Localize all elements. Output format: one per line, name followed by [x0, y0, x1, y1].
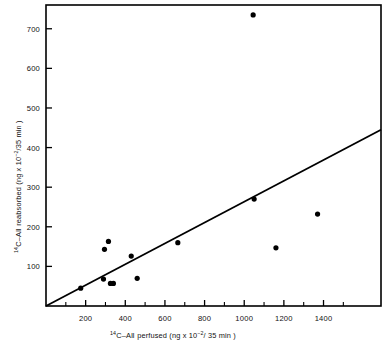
- scatter-plot-figure: [0, 0, 389, 349]
- x-tick-label-400: 400: [119, 314, 132, 323]
- x-tick-label-800: 800: [198, 314, 211, 323]
- data-point: [106, 239, 111, 244]
- regression-line: [46, 130, 381, 306]
- y-tick-label-700: 700: [16, 24, 40, 33]
- y-tick-label-400: 400: [16, 143, 40, 152]
- data-point: [315, 212, 320, 217]
- data-points: [78, 12, 320, 290]
- data-point: [101, 276, 106, 281]
- data-point: [273, 245, 278, 250]
- data-point: [102, 247, 107, 252]
- y-tick-label-500: 500: [16, 103, 40, 112]
- data-point: [251, 12, 256, 17]
- x-axis-major-ticks: [86, 300, 324, 306]
- y-axis-major-ticks: [46, 29, 52, 267]
- y-axis-verb: reabsorbed (ng x 10: [14, 157, 23, 228]
- data-point: [135, 276, 140, 281]
- y-tick-label-600: 600: [16, 64, 40, 73]
- x-tick-label-200: 200: [79, 314, 92, 323]
- y-tick-label-200: 200: [16, 222, 40, 231]
- x-axis-tail: / 35 min ): [204, 331, 236, 340]
- data-point: [78, 286, 83, 291]
- y-axis-species: C–A: [14, 232, 23, 247]
- x-tick-label-600: 600: [158, 314, 171, 323]
- x-axis-verb: perfused (ng x 10: [135, 331, 197, 340]
- data-point: [129, 253, 134, 258]
- x-axis-title: 14C–AII perfused (ng x 10−2/ 35 min ): [110, 331, 236, 340]
- x-axis-species: C–A: [116, 331, 131, 340]
- chart-page: 14C–AII perfused (ng x 10−2/ 35 min ) 14…: [0, 0, 389, 349]
- y-tick-label-100: 100: [16, 262, 40, 271]
- y-axis-isotope-superscript: 14: [13, 247, 19, 253]
- data-point: [111, 281, 116, 286]
- data-point: [175, 240, 180, 245]
- x-tick-label-1200: 1200: [275, 314, 293, 323]
- x-tick-label-1400: 1400: [315, 314, 333, 323]
- x-tick-label-1000: 1000: [235, 314, 253, 323]
- regression-line-path: [46, 130, 381, 306]
- y-tick-label-300: 300: [16, 183, 40, 192]
- data-point: [252, 196, 257, 201]
